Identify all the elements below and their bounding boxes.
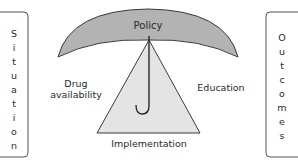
situation-letter: i — [13, 41, 16, 55]
education-label: Education — [194, 82, 248, 93]
outcomes-letter: o — [279, 87, 285, 101]
drug-availability-label: Drug availability — [48, 78, 104, 100]
drug-availability-line2: availability — [48, 89, 104, 100]
drug-availability-line1: Drug — [48, 78, 104, 89]
situation-letter: o — [11, 125, 17, 139]
situation-letter: u — [11, 69, 17, 83]
situation-letter: S — [11, 27, 17, 41]
outcomes-letter: t — [280, 59, 284, 73]
situation-letter: a — [11, 83, 17, 97]
situation-letter: t — [12, 97, 16, 111]
outcomes-letter: O — [278, 31, 285, 45]
situation-label: S i t u a t i o n — [9, 27, 19, 153]
outcomes-letter: u — [279, 45, 285, 59]
outcomes-letter: s — [280, 129, 285, 143]
policy-label: Policy — [128, 20, 168, 31]
outcomes-letter: m — [277, 101, 286, 115]
implementation-label: Implementation — [108, 138, 190, 149]
outcomes-label: O u t c o m e s — [277, 31, 287, 143]
situation-letter: i — [13, 111, 16, 125]
outcomes-letter: c — [279, 73, 284, 87]
situation-letter: t — [12, 55, 16, 69]
outcomes-letter: e — [279, 115, 285, 129]
situation-letter: n — [11, 139, 17, 153]
